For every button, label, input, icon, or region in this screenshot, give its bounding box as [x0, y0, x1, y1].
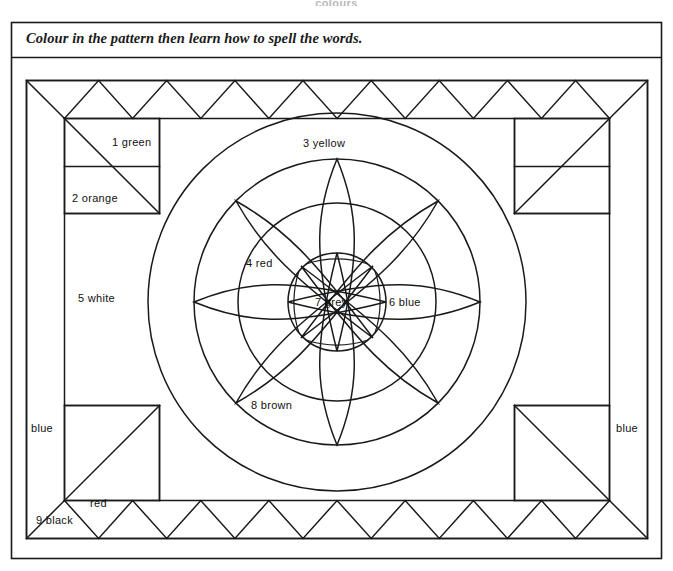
- spoke-arc-e: [375, 271, 380, 333]
- corner-diagonal-top-left: [27, 81, 65, 119]
- label-4-red: 4 red: [246, 257, 273, 269]
- label-9-black: 9 black: [36, 514, 73, 526]
- label-3-yellow: 3 yellow: [303, 137, 345, 149]
- label-8-brown: 8 brown: [251, 399, 292, 411]
- label-1-green: 1 green: [112, 136, 151, 148]
- label-5-white: 5 white: [78, 292, 115, 304]
- corner-diagonal-bottom-right: [610, 501, 648, 539]
- label-bottom-red: red: [90, 497, 107, 509]
- worksheet-page: colours: [0, 0, 673, 571]
- label-2-orange: 2 orange: [72, 192, 118, 204]
- colouring-pattern-svg: 1 green 2 orange 3 yellow 4 red 5 white …: [0, 0, 673, 571]
- spoke-arc-s: [306, 340, 368, 345]
- corner-diagonal-top-right: [610, 81, 648, 119]
- label-right-blue: blue: [616, 422, 638, 434]
- label-6-blue: 6 blue: [389, 296, 421, 308]
- corner-block-bottom-left-diagonal: [65, 406, 160, 501]
- spoke-arc-w: [294, 271, 299, 333]
- corner-block-bottom-right-diagonal: [515, 406, 610, 501]
- label-left-blue: blue: [31, 422, 53, 434]
- instruction-text: Colour in the pattern then learn how to …: [26, 30, 362, 47]
- bottom-sawtooth-zigzag: [65, 501, 610, 539]
- spoke-arc-n: [306, 259, 368, 264]
- label-group: 1 green 2 orange 3 yellow 4 red 5 white …: [31, 136, 638, 526]
- label-7-grey: 7 grey: [315, 296, 348, 308]
